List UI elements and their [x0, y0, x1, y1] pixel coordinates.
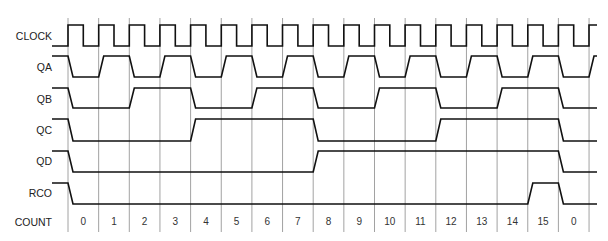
signal-label-qc: QC: [0, 124, 52, 136]
count-value: 5: [222, 216, 252, 228]
count-value: 7: [283, 216, 313, 228]
waveform-qc: [52, 119, 597, 141]
waveform-clock: [52, 25, 597, 46]
waveform-qa: [52, 56, 597, 77]
waveforms: [52, 25, 597, 204]
count-value: 11: [405, 216, 435, 228]
count-value: 0: [68, 216, 98, 228]
waveform-qd: [52, 151, 597, 172]
signal-label-qb: QB: [0, 93, 52, 105]
count-value: 14: [497, 216, 527, 228]
count-value: 9: [344, 216, 374, 228]
signal-label-rco: RCO: [0, 187, 52, 199]
signal-label-qd: QD: [0, 155, 52, 167]
count-value: 0: [559, 216, 589, 228]
waveform-qb: [52, 88, 597, 108]
count-value: 2: [130, 216, 160, 228]
count-value: 4: [191, 216, 221, 228]
count-value: 3: [160, 216, 190, 228]
signal-label-qa: QA: [0, 61, 52, 73]
count-value: 6: [252, 216, 282, 228]
count-value: 13: [467, 216, 497, 228]
waveform-rco: [52, 183, 597, 204]
timing-diagram: [0, 0, 608, 241]
count-value: 8: [314, 216, 344, 228]
grid-lines: [68, 18, 589, 232]
count-value: 12: [436, 216, 466, 228]
count-value: 10: [375, 216, 405, 228]
count-value: 15: [528, 216, 558, 228]
count-value: 1: [99, 216, 129, 228]
count-row-label: COUNT: [0, 216, 52, 228]
signal-label-clock: CLOCK: [0, 30, 52, 42]
